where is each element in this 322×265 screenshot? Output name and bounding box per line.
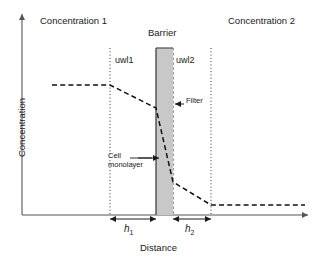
region-label-concentration-2: Concentration 2	[228, 16, 295, 27]
annotation-cell-monolayer-line2: monolayer	[108, 160, 143, 169]
x-axis-label: Distance	[140, 243, 177, 254]
annotation-cell-monolayer: Cellmonolayer	[108, 152, 143, 169]
layer-label-uwl1: uwl1	[115, 55, 134, 65]
layer-label-uwl2: uwl2	[176, 55, 195, 65]
thickness-label-h1-subscript: 1	[130, 229, 134, 236]
barrier-region	[156, 48, 173, 215]
annotation-filter: Filter	[186, 97, 203, 106]
thickness-label-h2: h2	[185, 223, 194, 237]
region-label-barrier: Barrier	[148, 28, 177, 39]
thickness-label-h1: h1	[124, 223, 133, 237]
y-axis-label: Concentration	[17, 84, 28, 170]
concentration-barrier-diagram: Concentration 1 Barrier Concentration 2 …	[0, 0, 322, 265]
region-label-concentration-1: Concentration 1	[40, 16, 107, 27]
diagram-canvas	[0, 0, 322, 265]
thickness-label-h2-subscript: 2	[191, 229, 195, 236]
concentration-profile-curve	[52, 85, 305, 205]
